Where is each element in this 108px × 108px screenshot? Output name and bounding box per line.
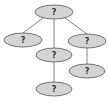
node-bottom: ? [36, 82, 72, 96]
tree-diagram: ?????? [0, 0, 108, 108]
node-right: ? [68, 34, 106, 48]
node-label: ? [21, 36, 26, 45]
node-label: ? [52, 51, 57, 60]
edge-root-to-right [64, 18, 87, 34]
node-label: ? [52, 8, 57, 17]
node-right-child: ? [69, 64, 105, 78]
node-root: ? [35, 5, 73, 19]
node-middle: ? [36, 48, 72, 62]
node-label: ? [85, 37, 90, 46]
edge-root-to-left [23, 18, 44, 33]
nodes: ?????? [4, 5, 106, 96]
node-label: ? [85, 67, 90, 76]
node-label: ? [52, 85, 57, 94]
node-left: ? [4, 33, 42, 47]
